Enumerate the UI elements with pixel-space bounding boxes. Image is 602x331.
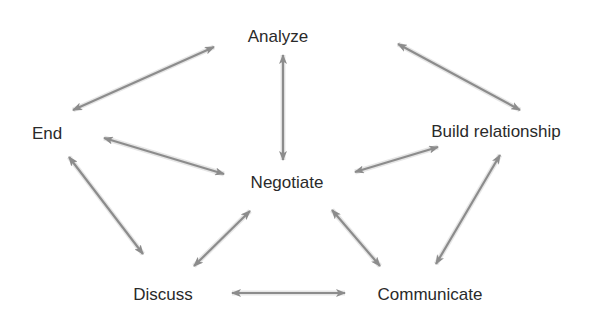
node-discuss: Discuss: [133, 285, 193, 304]
arrow-negotiate-discuss: [194, 211, 250, 266]
arrow-negotiate-communicate: [332, 210, 380, 266]
arrow-end-discuss: [69, 157, 143, 254]
node-analyze: Analyze: [248, 27, 308, 46]
nodes-group: AnalyzeEndBuild relationshipNegotiateDis…: [32, 27, 561, 304]
edges-group: [69, 44, 520, 293]
node-negotiate: Negotiate: [251, 173, 324, 192]
cycle-diagram: AnalyzeEndBuild relationshipNegotiateDis…: [0, 0, 602, 331]
arrow-end-negotiate: [104, 138, 224, 174]
arrow-end-analyze: [73, 47, 214, 110]
arrow-build-communicate: [436, 155, 500, 264]
arrow-analyze-build: [398, 44, 520, 110]
node-build: Build relationship: [431, 122, 560, 141]
arrow-build-negotiate: [355, 147, 438, 172]
node-end: End: [32, 124, 62, 143]
node-communicate: Communicate: [378, 285, 483, 304]
